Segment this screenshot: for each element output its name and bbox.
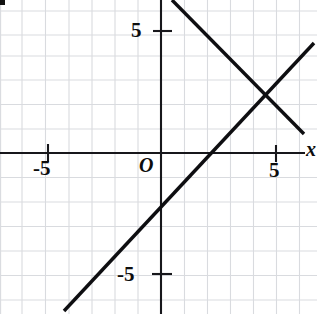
x-axis-tick-label-neg5: -5 bbox=[33, 158, 51, 179]
origin-label: O bbox=[139, 155, 153, 175]
y-axis-tick-label-pos5: 5 bbox=[131, 20, 142, 41]
coordinate-graph-figure: -5 5 5 -5 O x bbox=[0, 0, 317, 314]
x-axis-tick-label-pos5: 5 bbox=[269, 160, 280, 181]
x-axis-name-label: x bbox=[306, 139, 316, 159]
corner-marker-dot bbox=[0, 0, 5, 5]
descending-line bbox=[172, 0, 304, 134]
y-axis-tick-label-neg5: -5 bbox=[117, 264, 135, 285]
